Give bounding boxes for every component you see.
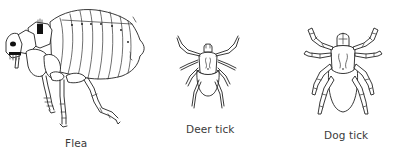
flea-label: Flea xyxy=(65,137,87,149)
deer-tick-label: Deer tick xyxy=(186,123,234,135)
deer-tick-figure xyxy=(172,34,244,114)
deer-tick-icon xyxy=(172,34,244,114)
dog-tick-icon xyxy=(300,24,386,120)
flea-figure xyxy=(0,0,150,130)
dog-tick-label: Dog tick xyxy=(324,129,368,141)
flea-icon xyxy=(0,0,150,130)
dog-tick-figure xyxy=(300,24,386,120)
